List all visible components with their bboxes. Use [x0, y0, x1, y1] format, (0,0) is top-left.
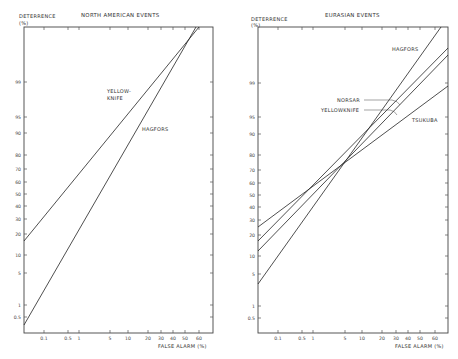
x-tick-label: 40: [405, 336, 411, 341]
y-tick-label: 40: [249, 205, 255, 210]
left-y-axis-unit: (%): [19, 20, 29, 26]
y-tick-label: 10: [249, 254, 255, 259]
y-tick-label: 70: [249, 168, 255, 173]
x-tick-label: 20: [379, 336, 385, 341]
y-tick-label: 60: [15, 180, 21, 185]
norsar-label: NORSAR: [337, 97, 360, 103]
left-chart-panel: DETERRENCE (%) NORTH AMERICAN EVENTS 99 …: [14, 12, 213, 349]
x-tick-label: 0.5: [298, 336, 305, 341]
yellowknife-label: YELLOW-: [106, 88, 131, 94]
right-y-axis: 99 95 90 80 70 60 50 40 30 20 10 5 1 0.5: [248, 81, 261, 321]
x-tick-label: 50: [417, 336, 423, 341]
y-tick-label: 95: [249, 115, 255, 120]
yellowknife-label-cont: KNIFE: [107, 95, 123, 101]
y-tick-label: 20: [15, 232, 21, 237]
hagfors-label: HAGFORS: [142, 126, 169, 132]
x-tick-label: 30: [393, 336, 399, 341]
hagfors-label: HAGFORS: [392, 46, 419, 52]
right-right-ticks: [445, 83, 448, 318]
left-y-axis-title: DETERRENCE: [19, 13, 56, 19]
right-plot-frame: [258, 27, 448, 333]
hagfors-line: [258, 27, 441, 284]
left-plot-frame: [24, 27, 213, 333]
x-tick-label: 0.5: [64, 336, 71, 341]
yellowknife-line: [258, 55, 448, 251]
hagfors-line: [24, 27, 196, 325]
y-tick-label: 70: [15, 167, 21, 172]
y-tick-label: 90: [249, 132, 255, 137]
x-tick-label: 40: [170, 336, 176, 341]
x-tick-label: 1: [78, 336, 81, 341]
x-tick-label: 10: [125, 336, 131, 341]
y-tick-label: 30: [15, 217, 21, 222]
y-tick-label: 5: [252, 272, 255, 277]
y-tick-label: 30: [249, 218, 255, 223]
y-tick-label: 90: [15, 131, 21, 136]
left-y-axis: 99 95 90 80 70 60 50 40 30 20 10 5 1 0.5: [14, 80, 27, 320]
left-x-axis-title: FALSE ALARM (%): [158, 343, 207, 349]
x-tick-label: 5: [109, 336, 112, 341]
x-tick-label: 1: [312, 336, 315, 341]
norsar-line: [258, 48, 448, 241]
y-tick-label: 99: [15, 80, 21, 85]
y-tick-label: 1: [18, 303, 21, 308]
x-tick-label: 50: [182, 336, 188, 341]
tsukuba-label: TSUKUBA: [411, 117, 438, 123]
y-tick-label: 99: [249, 81, 255, 86]
y-tick-label: 10: [15, 253, 21, 258]
y-tick-label: 1: [252, 304, 255, 309]
yellowknife-label: YELLOWKNIFE: [320, 107, 359, 113]
y-tick-label: 95: [15, 115, 21, 120]
x-tick-label: 60: [196, 336, 202, 341]
left-chart-title: NORTH AMERICAN EVENTS: [81, 12, 160, 18]
y-tick-label: 80: [15, 153, 21, 158]
y-tick-label: 80: [249, 153, 255, 158]
figure: DETERRENCE (%) NORTH AMERICAN EVENTS 99 …: [0, 0, 458, 359]
x-tick-label: 60: [432, 336, 438, 341]
y-tick-label: 5: [18, 271, 21, 276]
y-tick-label: 40: [15, 204, 21, 209]
x-tick-label: 20: [145, 336, 151, 341]
right-chart-panel: DETERRENCE (%) EURASIAN EVENTS 99 95 90 …: [248, 12, 448, 349]
yellowknife-line: [24, 27, 199, 241]
x-tick-label: 5: [344, 336, 347, 341]
x-tick-label: 0.1: [40, 336, 47, 341]
y-tick-label: 60: [249, 181, 255, 186]
y-tick-label: 0.5: [248, 316, 255, 321]
x-tick-label: 0.1: [274, 336, 281, 341]
y-tick-label: 20: [249, 233, 255, 238]
x-tick-label: 30: [158, 336, 164, 341]
y-tick-label: 50: [15, 192, 21, 197]
x-tick-label: 10: [359, 336, 365, 341]
right-chart-title: EURASIAN EVENTS: [325, 12, 380, 18]
y-tick-label: 50: [249, 193, 255, 198]
y-tick-label: 0.5: [14, 315, 21, 320]
right-x-axis-title: FALSE ALARM (%): [395, 343, 444, 349]
